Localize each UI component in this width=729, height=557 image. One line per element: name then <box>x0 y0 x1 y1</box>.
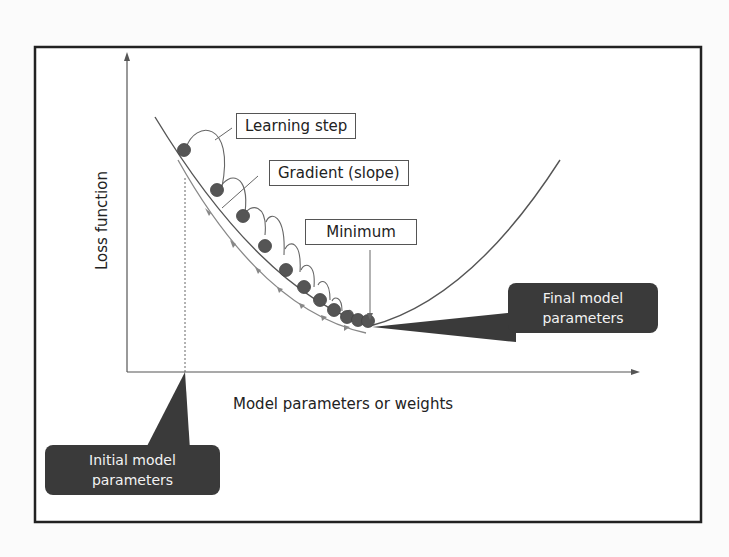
final-parameters-callout: Final model parameters <box>508 283 658 333</box>
initial-callout-line2: parameters <box>55 470 210 490</box>
final-callout-line2: parameters <box>518 308 648 328</box>
minimum-label: Minimum <box>305 219 417 245</box>
initial-callout-line1: Initial model <box>55 450 210 470</box>
final-callout-line1: Final model <box>518 288 648 308</box>
y-axis-label: Loss function <box>93 171 111 270</box>
x-axis-label: Model parameters or weights <box>233 395 453 413</box>
gradient-label: Gradient (slope) <box>269 160 409 186</box>
learning-step-label: Learning step <box>236 113 356 139</box>
initial-parameters-callout: Initial model parameters <box>45 445 220 495</box>
